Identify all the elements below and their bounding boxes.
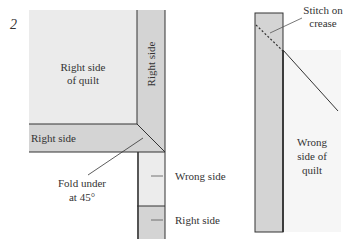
step-number: 2 <box>10 17 17 32</box>
horizontal-binding-label: Right side <box>31 132 76 144</box>
stitch-label: Stitch on <box>303 4 343 16</box>
svg-text:crease: crease <box>309 17 337 29</box>
left-figure: Right side of quilt Right side Right sid… <box>29 10 226 239</box>
svg-text:at 45°: at 45° <box>69 191 95 203</box>
binding-diagram: 2 Right side of quilt Right side Right s… <box>0 0 348 239</box>
vertical-binding-label: Right side <box>145 41 157 86</box>
svg-text:side of: side of <box>297 150 327 162</box>
lower-right-side-strip <box>137 206 165 239</box>
wrong-side-strip <box>137 152 165 206</box>
binding-strip <box>255 13 283 232</box>
wrong-side-quilt-label: Wrong <box>297 136 328 148</box>
svg-text:quilt: quilt <box>302 164 322 176</box>
quilt-label: Right side <box>61 61 106 73</box>
right-figure: Stitch on crease Wrong side of quilt <box>255 4 348 239</box>
fold-label: Fold under <box>58 177 106 189</box>
svg-text:of quilt: of quilt <box>67 74 99 86</box>
wrong-side-label: Wrong side <box>175 170 226 182</box>
lower-right-side-label: Right side <box>175 214 220 226</box>
